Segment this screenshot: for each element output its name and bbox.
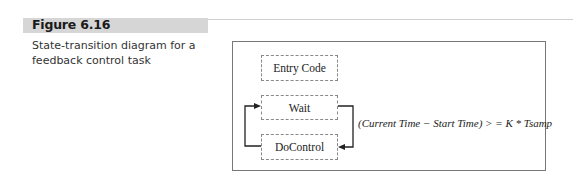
- arrowhead-icon: [338, 144, 345, 150]
- arrow-wait-to-docontrol: [338, 106, 353, 150]
- arrowhead-icon: [254, 103, 261, 109]
- loop-arrow-docontrol-to-wait: [245, 103, 261, 146]
- transition-condition: (Current Time − Start Time) > = K * Tsam…: [358, 117, 552, 129]
- transition-arrows: [0, 0, 587, 183]
